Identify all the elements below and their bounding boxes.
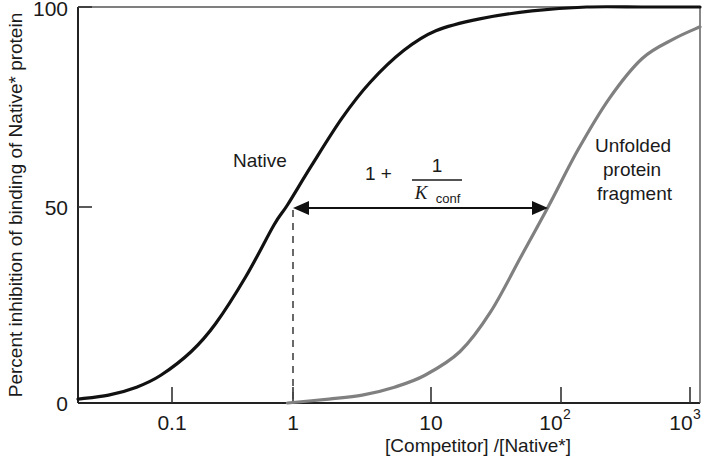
- series-label-unfolded-line-1: Unfolded: [595, 135, 671, 156]
- x-tick-label-100-base: 10: [539, 411, 562, 434]
- x-axis-title: [Competitor] /[Native*]: [385, 435, 571, 456]
- y-axis-tick-labels: 100 50 0: [33, 0, 68, 415]
- x-axis-tick-labels: 0.1 1 10 10 2 10 3: [157, 406, 701, 434]
- x-tick-label-1000-group: 10 3: [669, 406, 701, 434]
- curve-unfolded-protein-fragment: [287, 27, 700, 403]
- formula-lead: 1 +: [365, 163, 392, 184]
- y-axis-title: Percent inhibition of binding of Native*…: [5, 13, 26, 397]
- arrow-head-left: [293, 201, 309, 215]
- y-axis-ticks: [78, 7, 92, 207]
- x-tick-label-1: 1: [287, 411, 299, 434]
- y-tick-label-0: 0: [56, 392, 68, 415]
- plot-frame: [78, 7, 700, 403]
- kconf-span-arrow: [293, 201, 548, 215]
- formula-denominator-symbol: K: [414, 182, 429, 203]
- x-tick-label-0.1: 0.1: [157, 411, 186, 434]
- binding-inhibition-chart: 100 50 0 0.1 1 10 10 2 10 3 [Competitor]…: [0, 0, 708, 463]
- y-tick-label-50: 50: [45, 196, 68, 219]
- x-axis-ticks: [172, 387, 690, 403]
- series-label-unfolded-line-3: fragment: [597, 183, 673, 204]
- x-tick-label-10: 10: [419, 411, 442, 434]
- x-tick-label-100-group: 10 2: [539, 406, 571, 434]
- x-tick-label-1000-exponent: 3: [693, 406, 701, 422]
- x-tick-label-1000-base: 10: [669, 411, 692, 434]
- kconf-formula: 1 + 1 K conf: [365, 155, 462, 206]
- formula-numerator: 1: [432, 155, 443, 176]
- series-label-unfolded: Unfolded protein fragment: [595, 135, 673, 204]
- x-tick-label-100-exponent: 2: [563, 406, 571, 422]
- formula-denominator-subscript: conf: [436, 191, 461, 206]
- series-label-native: Native: [233, 150, 287, 171]
- series-label-unfolded-line-2: protein: [603, 159, 661, 180]
- y-tick-label-100: 100: [33, 0, 68, 20]
